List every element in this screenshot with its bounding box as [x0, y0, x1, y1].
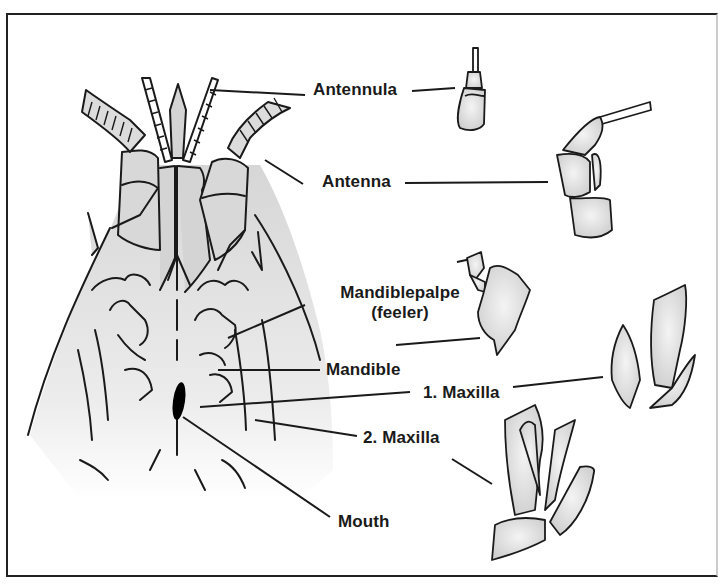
label-maxilla-1: 1. Maxilla [423, 383, 500, 403]
label-antennula: Antennula [313, 80, 397, 100]
label-maxilla-2: 2. Maxilla [363, 428, 440, 448]
maxilla-1-appendage [612, 285, 695, 408]
head-body [28, 150, 333, 500]
antennula-appendage [458, 48, 485, 130]
label-antenna: Antenna [322, 172, 391, 192]
label-mandible: Mandible [326, 360, 400, 380]
label-mandiblepalpe-subtext: (feeler) [315, 303, 485, 323]
label-mandiblepalpe: Mandiblepalpe (feeler) [315, 283, 485, 323]
label-mouth: Mouth [338, 512, 389, 532]
label-mandiblepalpe-text: Mandiblepalpe [315, 283, 485, 303]
left-antenna [82, 90, 145, 152]
maxilla-2-appendage [492, 405, 594, 560]
antenna-appendage [557, 102, 651, 237]
